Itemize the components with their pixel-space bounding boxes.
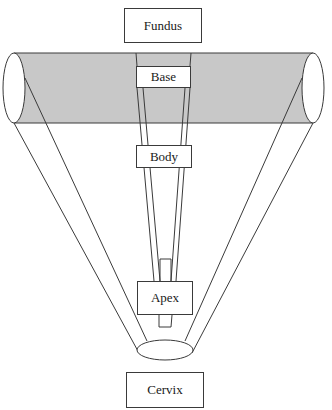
fundus-label: Fundus xyxy=(144,18,182,34)
cervix-label: Cervix xyxy=(147,382,182,398)
uterus-schematic-diagram xyxy=(0,0,332,410)
cylinder-right-end xyxy=(302,53,324,123)
apex-stem-bottom xyxy=(159,315,172,327)
fundus-label-box: Fundus xyxy=(124,8,202,43)
cervix-label-box: Cervix xyxy=(126,372,204,408)
outer-cone-left-outer xyxy=(14,123,139,353)
body-label: Body xyxy=(150,149,178,165)
body-label-box: Body xyxy=(136,145,192,168)
outer-cone-right-outer xyxy=(192,123,313,353)
cylinder-body xyxy=(14,53,313,123)
base-label-box: Base xyxy=(136,66,191,88)
apex-label-box: Apex xyxy=(137,281,193,315)
apex-label: Apex xyxy=(151,290,179,306)
cervical-ellipse xyxy=(137,340,193,360)
cylinder-left-end xyxy=(3,53,25,123)
base-label: Base xyxy=(151,69,176,85)
